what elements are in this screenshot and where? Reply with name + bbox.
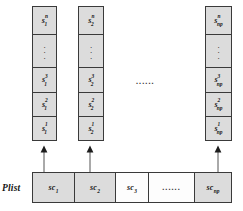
- stack-cell: s21: [32, 92, 57, 117]
- arrow-to-stack-np: [212, 145, 224, 173]
- plist-symbol: sc2: [90, 184, 100, 192]
- state-symbol: s12: [88, 125, 93, 133]
- stack-cell-ellipsis: ...: [205, 34, 232, 68]
- stack-cell: s22: [78, 92, 104, 117]
- plist-bar: sc1 sc2 sc3 ...... scnp: [32, 172, 232, 203]
- plist-cell-sc-3: sc3: [115, 172, 149, 203]
- arrow-to-stack-1: [38, 145, 50, 173]
- plist-symbol: scnp: [207, 184, 220, 192]
- plist-cell-ellipsis: ......: [148, 172, 195, 203]
- stack-cell: sn1: [32, 6, 57, 35]
- horizontal-ellipsis-icon: ......: [136, 78, 155, 86]
- stack-cell: sn2: [78, 6, 104, 35]
- state-symbol: s11: [42, 125, 47, 133]
- arrow-to-stack-2: [84, 145, 96, 173]
- state-symbol: s31: [42, 76, 47, 84]
- state-symbol: s21: [42, 101, 47, 109]
- stack-cell: s1np: [205, 116, 232, 141]
- plist-symbol: sc3: [127, 184, 137, 192]
- stack-cell: s31: [32, 67, 57, 93]
- stack-cell: snnp: [205, 6, 232, 35]
- stack-cell-ellipsis: ...: [78, 34, 104, 68]
- stack-cell: s3np: [205, 67, 232, 93]
- state-symbol: s2np: [214, 101, 222, 109]
- state-symbol: s3np: [214, 76, 222, 84]
- plist-label: Plist: [2, 183, 20, 193]
- vertical-ellipsis-icon: ...: [90, 43, 92, 60]
- stack-cell: s11: [32, 116, 57, 141]
- stack-cell: s32: [78, 67, 104, 93]
- stack-cell: s12: [78, 116, 104, 141]
- state-symbol: s1np: [214, 125, 222, 133]
- figure-canvas: sn1 ... s31 s21 s11 sn2: [0, 0, 243, 211]
- horizontal-ellipsis-icon: ......: [162, 183, 181, 192]
- plist-symbol: sc1: [49, 184, 59, 192]
- plist-cell-sc-1: sc1: [32, 172, 75, 203]
- vertical-ellipsis-icon: ...: [43, 43, 45, 60]
- plist-cell-sc-2: sc2: [74, 172, 116, 203]
- state-symbol: s32: [88, 76, 93, 84]
- stack-cell-ellipsis: ...: [32, 34, 57, 68]
- vertical-ellipsis-icon: ...: [217, 43, 219, 60]
- plist-cell-sc-np: scnp: [194, 172, 232, 203]
- state-stack-1: sn1 ... s31 s21 s11: [32, 6, 57, 145]
- state-symbol: sn1: [42, 17, 47, 25]
- stack-cell: s2np: [205, 92, 232, 117]
- state-symbol: s22: [88, 101, 93, 109]
- state-stack-2: sn2 ... s32 s22 s12: [78, 6, 104, 145]
- state-symbol: sn2: [88, 17, 93, 25]
- state-stack-np: snnp ... s3np s2np s1np: [205, 6, 232, 145]
- state-symbol: snnp: [214, 17, 222, 25]
